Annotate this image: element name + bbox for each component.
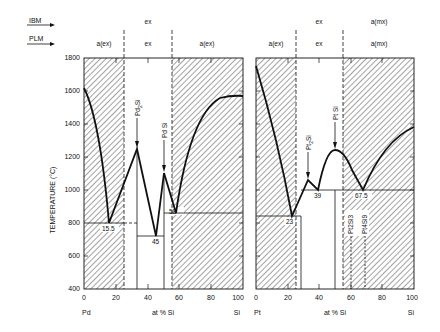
compound-pdsi-label: Pd Si (161, 122, 168, 138)
compound-ptsi-label: Pt Si (332, 106, 339, 120)
plm-label: PLM (29, 35, 44, 42)
svg-text:100: 100 (406, 294, 418, 301)
legend: IBM PLM (27, 17, 55, 46)
svg-text:600: 600 (68, 252, 80, 259)
phase-diagram: IBM PLM 1800 1600 1400 1200 1000 800 600… (0, 0, 440, 332)
svg-text:20: 20 (284, 294, 292, 301)
svg-text:0: 0 (82, 294, 86, 301)
ibm-region-label: ex (145, 18, 153, 25)
svg-text:400: 400 (68, 285, 80, 292)
ibm-label: IBM (29, 17, 42, 24)
svg-text:1800: 1800 (64, 54, 80, 61)
svg-text:40: 40 (315, 294, 323, 301)
ibm-region-label: ex (316, 18, 324, 25)
y-axis: 1800 1600 1400 1200 1000 800 600 400 TEM… (49, 54, 80, 292)
right-element-label: Si (234, 309, 241, 316)
plm-region-label: a(ex) (269, 40, 284, 48)
svg-text:1200: 1200 (64, 153, 80, 160)
svg-text:0: 0 (254, 294, 258, 301)
svg-text:40: 40 (144, 294, 152, 301)
right-panel-pt-si: Pt2Si Pt Si Pt2Si3 Pt4Si9 23 39 67.5 ex … (254, 18, 418, 316)
eutectic-label: 58 (169, 208, 177, 215)
plm-region-label: a(ex) (200, 40, 215, 48)
y-axis-label: TEMPERATURE (°C) (49, 167, 57, 234)
ibm-region-label: a(mx) (371, 18, 388, 26)
svg-text:60: 60 (347, 294, 355, 301)
plm-region-label: ex (316, 40, 324, 47)
svg-text:80: 80 (378, 294, 386, 301)
eutectic-label: 67.5 (355, 192, 368, 199)
svg-text:60: 60 (175, 294, 183, 301)
svg-text:100: 100 (232, 294, 244, 301)
plm-region-label: ex (145, 40, 153, 47)
compound-pt2si-label: Pt2Si (305, 135, 314, 150)
eutectic-label: 15.5 (102, 225, 115, 232)
svg-text:1400: 1400 (64, 120, 80, 127)
right-element-label: Si (408, 309, 415, 316)
plm-region-label: a(mx) (371, 40, 388, 48)
svg-text:800: 800 (68, 219, 80, 226)
compound-pt2si3-label: Pt2Si3 (347, 214, 354, 234)
left-panel-pd-si: Pd2Si Pd Si 15.5 45 58 ex a(ex) ex a(ex)… (82, 18, 244, 316)
svg-text:20: 20 (112, 294, 120, 301)
eutectic-label: 39 (314, 192, 322, 199)
svg-text:80: 80 (207, 294, 215, 301)
eutectic-label: 23 (286, 218, 294, 225)
left-element-label: Pt (254, 309, 261, 316)
compound-pt4si9-label: Pt4Si9 (361, 214, 368, 234)
svg-text:1000: 1000 (64, 186, 80, 193)
svg-text:1600: 1600 (64, 87, 80, 94)
x-axis-label: at % Si (324, 309, 347, 316)
plm-region-label: a(ex) (97, 40, 112, 48)
eutectic-label: 45 (152, 238, 160, 245)
left-element-label: Pd (82, 309, 91, 316)
x-axis-label: at % Si (152, 309, 175, 316)
compound-pd2si-label: Pd2Si (134, 99, 143, 116)
